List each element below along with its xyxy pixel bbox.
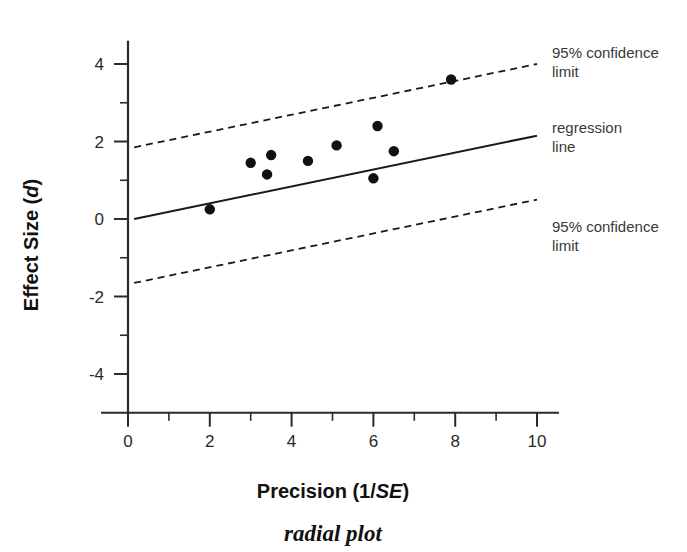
x-axis-title-plain: Precision (1/ [257, 480, 376, 502]
annotation-regression-line1: regression [552, 119, 622, 136]
y-tick-label: 2 [95, 133, 104, 152]
x-axis-ticks [128, 413, 537, 427]
x-axis-title: Precision (1/SE) [257, 480, 409, 502]
annotation-lower-ci: 95% confidence limit [552, 218, 659, 254]
data-point [303, 156, 313, 166]
x-axis-title-italic: SE [376, 480, 403, 502]
y-tick-label: 4 [95, 55, 104, 74]
y-axis-title-plain: Effect Size ( [20, 197, 42, 311]
y-axis-title: Effect Size (d) [20, 179, 42, 311]
confidence-limit-line [134, 200, 537, 283]
data-point [372, 121, 382, 131]
data-point [368, 173, 378, 183]
svg-text:Effect Size (d): Effect Size (d) [20, 179, 42, 311]
y-axis-ticks [114, 64, 128, 374]
chart-canvas: 420-2-4 0246810 Effect Size (d) Precisio… [0, 0, 687, 552]
y-axis-tick-labels: 420-2-4 [89, 55, 104, 384]
x-tick-label: 0 [123, 432, 132, 451]
data-point [262, 169, 272, 179]
y-tick-label: -4 [89, 365, 104, 384]
x-tick-label: 6 [369, 432, 378, 451]
annotation-upper-ci-line1: 95% confidence [552, 44, 659, 61]
annotation-regression-line2: line [552, 138, 575, 155]
data-point [446, 74, 456, 84]
x-tick-label: 4 [287, 432, 296, 451]
data-point [389, 146, 399, 156]
annotation-upper-ci: 95% confidence limit [552, 44, 659, 80]
x-tick-label: 2 [205, 432, 214, 451]
data-point [266, 150, 276, 160]
y-axis-title-tail: ) [20, 179, 42, 186]
axes-group: 420-2-4 0246810 [89, 41, 559, 451]
svg-text:Precision (1/SE): Precision (1/SE) [257, 480, 409, 502]
confidence-limit-line [134, 64, 537, 147]
data-points-group [205, 74, 457, 214]
annotation-lower-ci-line1: 95% confidence [552, 218, 659, 235]
y-axis-title-italic: d [20, 185, 42, 198]
trend-lines-group [134, 64, 537, 283]
x-tick-label: 10 [528, 432, 547, 451]
radial-plot-figure: 420-2-4 0246810 Effect Size (d) Precisio… [0, 0, 687, 552]
data-point [205, 204, 215, 214]
y-tick-label: 0 [95, 210, 104, 229]
figure-caption: radial plot [284, 521, 382, 546]
x-axis-tick-labels: 0246810 [123, 432, 546, 451]
x-tick-label: 8 [450, 432, 459, 451]
x-axis-title-tail: ) [402, 480, 409, 502]
annotation-lower-ci-line2: limit [552, 237, 579, 254]
data-point [246, 158, 256, 168]
annotation-regression: regression line [552, 119, 622, 155]
y-tick-label: -2 [89, 288, 104, 307]
annotation-upper-ci-line2: limit [552, 63, 579, 80]
data-point [331, 140, 341, 150]
